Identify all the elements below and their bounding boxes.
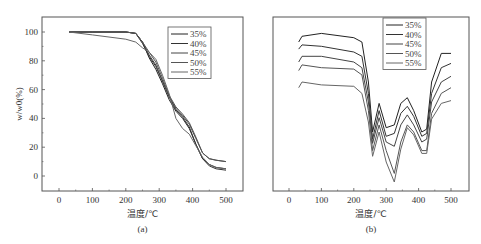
legend-entry: 45% xyxy=(405,39,422,49)
legend-entry: 35% xyxy=(405,20,422,30)
legend-entry: 35% xyxy=(190,29,207,39)
subfigure-caption: (b) xyxy=(366,224,377,234)
series-line-35pct xyxy=(299,33,451,132)
y-tick-label: 20 xyxy=(29,142,39,152)
y-axis-label: w/w0(%) xyxy=(14,87,24,121)
x-tick-label: 0 xyxy=(57,195,62,205)
plot-frame xyxy=(273,17,469,191)
y-tick-label: 60 xyxy=(29,85,39,95)
y-tick-label: 0 xyxy=(34,171,39,181)
x-tick-label: 500 xyxy=(444,195,458,205)
x-tick-label: 400 xyxy=(186,195,200,205)
y-tick-label: 80 xyxy=(29,56,39,66)
x-tick-label: 400 xyxy=(412,195,426,205)
figure: 0100200300400500020406080100温度/℃(a)35%40… xyxy=(0,0,481,244)
x-tick-label: 100 xyxy=(315,195,329,205)
x-tick-label: 200 xyxy=(347,195,361,205)
x-tick-label: 300 xyxy=(152,195,166,205)
chart-a-tga: 0100200300400500020406080100温度/℃(a)35%40… xyxy=(14,17,243,234)
chart-b-dtg: 0100200300400500温度/℃(b)35%40%45%50%55% xyxy=(273,17,469,234)
x-axis-label: 温度/℃ xyxy=(127,208,158,219)
x-tick-label: 300 xyxy=(379,195,393,205)
legend-entry: 55% xyxy=(190,67,207,77)
series-line-45pct xyxy=(299,56,451,146)
legend-entry: 40% xyxy=(190,39,207,49)
y-tick-label: 100 xyxy=(25,27,39,37)
x-tick-label: 0 xyxy=(287,195,292,205)
subfigure-caption: (a) xyxy=(138,224,148,234)
x-tick-label: 200 xyxy=(119,195,133,205)
x-tick-label: 100 xyxy=(86,195,100,205)
x-axis-label: 温度/℃ xyxy=(355,208,386,219)
legend-entry: 50% xyxy=(190,58,207,68)
legend-entry: 40% xyxy=(405,30,422,40)
x-tick-label: 500 xyxy=(219,195,233,205)
legend-entry: 50% xyxy=(405,49,422,59)
legend-entry: 55% xyxy=(405,58,422,68)
y-tick-label: 40 xyxy=(29,113,39,123)
legend-entry: 45% xyxy=(190,48,207,58)
series-line-55pct xyxy=(299,82,451,182)
